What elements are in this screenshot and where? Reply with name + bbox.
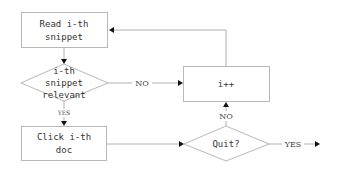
- arrowhead-icon: [109, 27, 114, 33]
- node-relevant-line3: relevant: [42, 90, 85, 100]
- arrowhead-icon: [61, 59, 67, 64]
- node-click-doc: Click i-th doc: [22, 127, 107, 161]
- arrowhead-icon: [223, 102, 229, 107]
- node-read-snippet-line2: snippet: [45, 32, 83, 42]
- node-read-snippet: Read i-th snippet: [22, 13, 108, 48]
- node-quit-label: Quit?: [212, 139, 239, 149]
- node-relevant-line1: i-th: [53, 66, 75, 76]
- edge-label-relevant-yes: YES: [57, 109, 70, 116]
- flowchart-canvas: Read i-th snippet i-th snippet relevant …: [0, 0, 343, 171]
- edge-label-quit-no: NO: [219, 112, 233, 121]
- node-increment-label: i++: [218, 79, 235, 89]
- edge-label-quit-yes: YES: [284, 140, 302, 149]
- arrowhead-icon: [315, 141, 320, 147]
- node-increment: i++: [184, 67, 270, 102]
- node-relevant-check: i-th snippet relevant: [21, 64, 108, 101]
- node-click-doc-line2: doc: [56, 145, 72, 155]
- node-click-doc-line1: Click i-th: [37, 132, 91, 142]
- node-read-snippet-line1: Read i-th: [40, 19, 89, 29]
- edge-increment-to-read: [113, 30, 226, 66]
- arrowhead-icon: [178, 80, 183, 86]
- edge-label-relevant-no: NO: [135, 79, 149, 88]
- arrowhead-icon: [61, 121, 67, 126]
- node-quit-check: Quit?: [184, 126, 269, 161]
- node-relevant-line2: snippet: [45, 78, 83, 88]
